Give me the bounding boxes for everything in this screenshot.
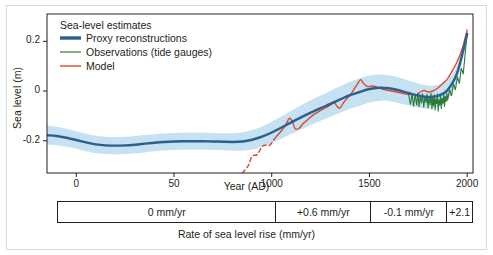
rate-cell: +0.6 mm/yr [276, 202, 371, 222]
rate-of-rise-bar: 0 mm/yr+0.6 mm/yr-0.1 mm/yr+2.1 [57, 201, 473, 223]
legend-entry-observations: Observations (tide gauges) [60, 46, 212, 58]
y-tick-label: 0.2 [6, 34, 40, 45]
x-tick-label: 2000 [447, 178, 487, 189]
rate-bar-caption: Rate of sea level rise (mm/yr) [0, 228, 493, 240]
legend-label-proxy: Proxy reconstructions [86, 32, 187, 44]
legend-entry-model: Model [60, 60, 115, 72]
legend-swatch-proxy [60, 32, 81, 44]
rate-cell: -0.1 mm/yr [371, 202, 447, 222]
x-tick-label: 50 [154, 178, 194, 189]
rate-cell: +2.1 [447, 202, 472, 222]
y-tick-label: 0 [6, 84, 40, 95]
y-axis-title: Sea level (m) [11, 53, 23, 143]
x-tick-label: 1000 [252, 178, 292, 189]
x-tick-label: 0 [56, 178, 96, 189]
legend-swatch-observations [60, 46, 81, 58]
rate-cell: 0 mm/yr [58, 202, 276, 222]
legend-swatch-model [60, 60, 81, 72]
x-tick-label: 1500 [349, 178, 389, 189]
legend-label-model: Model [86, 60, 115, 72]
y-tick-label: -0.2 [6, 134, 40, 145]
legend-title: Sea-level estimates [60, 19, 152, 31]
legend-entry-proxy: Proxy reconstructions [60, 32, 187, 44]
sea-level-figure: Sea-level estimates Proxy reconstruction… [0, 0, 493, 255]
legend-label-observations: Observations (tide gauges) [86, 46, 212, 58]
